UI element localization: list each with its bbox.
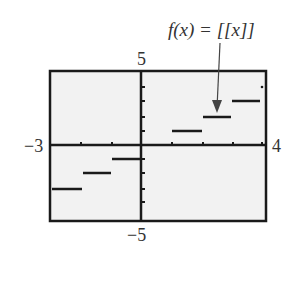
xmin-label: −3 [24,136,43,156]
annotation-label: f(x) = [[x]] [168,19,255,41]
step-point [261,86,264,89]
ymax-label: 5 [137,49,146,69]
ymin-label: −5 [127,225,146,245]
step-function-chart: f(x) = [[x]] 5 −5 −3 4 [0,0,305,283]
xmax-label: 4 [272,136,281,156]
